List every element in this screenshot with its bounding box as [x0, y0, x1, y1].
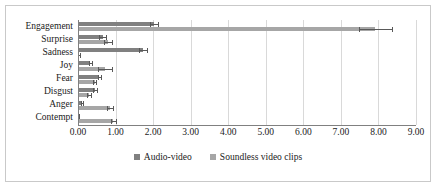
bar-soundless-video-clips [78, 119, 113, 123]
plot-area: EngagementSurpriseSadnessJoyFearDisgustA… [78, 20, 416, 125]
error-bar-cap [87, 93, 88, 98]
category-label: Engagement [26, 22, 73, 32]
x-tick-label: 0.00 [70, 128, 87, 138]
error-bar-cap [147, 48, 148, 53]
bar-group: Disgust [78, 86, 416, 99]
error-bar-cap [101, 75, 102, 80]
error-bar-cap [112, 67, 113, 72]
bar-audio-video [78, 48, 143, 52]
gridline [416, 20, 417, 125]
y-axis-line [78, 20, 79, 125]
error-bar [98, 69, 112, 70]
bar-group: Engagement [78, 20, 416, 33]
x-axis-tick-labels: 0.001.002.003.004.005.006.007.008.009.00 [78, 128, 416, 142]
x-tick-label: 9.00 [408, 128, 425, 138]
error-bar [104, 42, 112, 43]
bar-audio-video [78, 75, 99, 79]
x-tick-label: 8.00 [370, 128, 387, 138]
bar-group: Surprise [78, 33, 416, 46]
category-label: Surprise [41, 35, 73, 45]
category-label: Sadness [42, 48, 73, 58]
error-bar [359, 29, 391, 30]
x-tick-label: 2.00 [145, 128, 162, 138]
legend-label: Audio-video [144, 152, 192, 162]
bar-group: Sadness [78, 46, 416, 59]
error-bar-cap [98, 67, 99, 72]
x-tick-label: 1.00 [107, 128, 124, 138]
error-bar-cap [113, 106, 114, 111]
category-label: Fear [56, 74, 73, 84]
error-bar [150, 24, 158, 25]
error-bar-cap [139, 48, 140, 53]
error-bar [99, 37, 106, 38]
bar-group: Anger [78, 99, 416, 112]
bar-group: Joy [78, 59, 416, 72]
error-bar-cap [104, 40, 105, 45]
error-bar-cap [80, 53, 81, 58]
x-tick-label: 6.00 [295, 128, 312, 138]
legend-label: Soundless video clips [220, 152, 302, 162]
legend-swatch-icon [134, 154, 140, 160]
bar-soundless-video-clips [78, 27, 375, 31]
bar-audio-video [78, 22, 154, 26]
x-axis-line [78, 125, 416, 126]
x-tick-label: 5.00 [257, 128, 274, 138]
error-bar-cap [112, 40, 113, 45]
error-bar-cap [107, 106, 108, 111]
error-bar-cap [91, 93, 92, 98]
bar-group: Fear [78, 73, 416, 86]
x-tick-label: 3.00 [182, 128, 199, 138]
error-bar-cap [116, 119, 117, 124]
x-tick-label: 4.00 [220, 128, 237, 138]
category-label: Disgust [44, 87, 73, 97]
error-bar [139, 50, 147, 51]
legend-swatch-icon [210, 154, 216, 160]
error-bar-cap [97, 88, 98, 93]
category-label: Contempt [36, 113, 73, 123]
chart-frame: EngagementSurpriseSadnessJoyFearDisgustA… [5, 5, 431, 182]
x-tick-label: 7.00 [333, 128, 350, 138]
error-bar-cap [93, 88, 94, 93]
chart-legend: Audio-videoSoundless video clips [6, 152, 430, 162]
category-label: Anger [49, 100, 73, 110]
error-bar-cap [98, 75, 99, 80]
error-bar-cap [111, 119, 112, 124]
bar-group: Contempt [78, 112, 416, 125]
error-bar-cap [96, 80, 97, 85]
error-bar-cap [392, 27, 393, 32]
category-label: Joy [60, 61, 73, 71]
error-bar-cap [359, 27, 360, 32]
legend-item[interactable]: Audio-video [134, 152, 192, 162]
error-bar-cap [93, 80, 94, 85]
legend-item[interactable]: Soundless video clips [210, 152, 302, 162]
bar-soundless-video-clips [78, 106, 110, 110]
